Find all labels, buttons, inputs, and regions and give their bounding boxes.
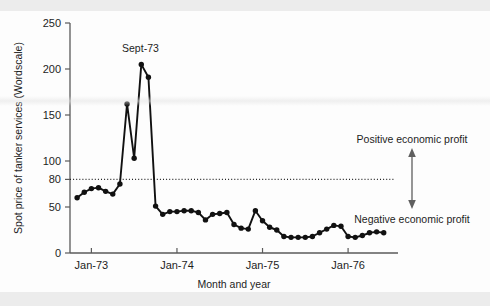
data-point: [260, 218, 265, 223]
y-axis-ticks: [65, 23, 70, 253]
data-point: [324, 226, 329, 231]
data-point: [353, 235, 358, 240]
data-point: [295, 235, 300, 240]
data-point: [117, 181, 122, 186]
data-point: [96, 185, 101, 190]
data-point: [82, 190, 87, 195]
y-axis-title: Spot price of tanker services (Wordscale…: [12, 42, 24, 234]
x-tick-label-Jan-74: Jan-74: [160, 259, 194, 271]
data-point: [360, 233, 365, 238]
data-point: [167, 209, 172, 214]
data-point: [267, 225, 272, 230]
x-tick-label-Jan-76: Jan-76: [331, 259, 365, 271]
data-line-spot-price: [77, 64, 384, 237]
data-point: [160, 212, 165, 217]
chart-figure: 05080100150200250 Jan-73Jan-74Jan-75Jan-…: [0, 0, 490, 306]
data-point: [189, 208, 194, 213]
data-point: [288, 235, 293, 240]
data-point: [238, 225, 243, 230]
positive-economic-profit-label: Positive economic profit: [357, 133, 468, 145]
y-tick-label-200: 200: [43, 63, 61, 75]
data-point: [203, 217, 208, 222]
data-point: [139, 62, 144, 67]
data-point: [274, 227, 279, 232]
data-point: [224, 210, 229, 215]
data-point: [210, 212, 215, 217]
y-tick-label-250: 250: [43, 17, 61, 29]
data-point: [131, 156, 136, 161]
data-point: [331, 223, 336, 228]
data-point: [181, 208, 186, 213]
x-axis-ticks: [91, 248, 348, 253]
y-tick-label-80: 80: [49, 173, 61, 185]
data-point: [317, 230, 322, 235]
economic-profit-double-arrow: [408, 148, 416, 209]
negative-economic-profit-label: Negative economic profit: [354, 213, 470, 225]
x-axis-title: Month and year: [198, 278, 271, 290]
x-axis-tick-labels: Jan-73Jan-74Jan-75Jan-76: [75, 259, 365, 271]
scan-artifact-bottom-band: [0, 292, 490, 306]
data-point: [281, 234, 286, 239]
data-point-markers: [74, 62, 386, 240]
scan-artifact-top-band: [0, 0, 490, 11]
data-point: [146, 75, 151, 80]
data-point: [74, 195, 79, 200]
y-tick-label-0: 0: [55, 247, 61, 259]
data-point: [310, 234, 315, 239]
x-tick-label-Jan-75: Jan-75: [246, 259, 280, 271]
data-point: [153, 203, 158, 208]
data-point: [381, 230, 386, 235]
data-point: [89, 186, 94, 191]
data-point: [338, 224, 343, 229]
y-tick-label-100: 100: [43, 155, 61, 167]
sept-73-annotation-label: Sept-73: [122, 42, 159, 54]
data-point: [174, 209, 179, 214]
data-point: [367, 230, 372, 235]
scan-artifact-mid-band: [0, 96, 490, 106]
data-point: [103, 189, 108, 194]
data-point: [345, 234, 350, 239]
data-point: [253, 208, 258, 213]
data-point: [231, 222, 236, 227]
data-point: [110, 191, 115, 196]
y-tick-label-50: 50: [49, 201, 61, 213]
data-point: [196, 210, 201, 215]
data-point: [303, 235, 308, 240]
y-tick-label-150: 150: [43, 109, 61, 121]
y-axis-tick-labels: 05080100150200250: [43, 17, 61, 259]
x-tick-label-Jan-73: Jan-73: [75, 259, 109, 271]
line-chart-plot: 05080100150200250 Jan-73Jan-74Jan-75Jan-…: [0, 0, 490, 306]
data-point: [374, 229, 379, 234]
data-point: [217, 211, 222, 216]
data-point: [246, 226, 251, 231]
